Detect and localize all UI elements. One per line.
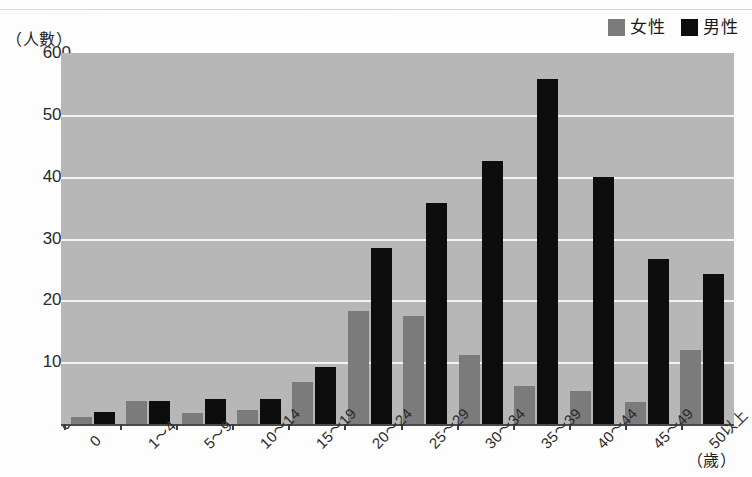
bar-group: [342, 53, 397, 424]
bar-group: [231, 53, 286, 424]
bar-male: [703, 274, 724, 424]
chart-legend: 女性男性: [608, 16, 738, 38]
bar-female: [126, 401, 147, 424]
bar-female: [182, 413, 203, 424]
bar-female: [237, 410, 258, 424]
bar-group: [65, 53, 120, 424]
chart-page: 女性男性 （人數） 0100200300400500600 01～45～910～…: [0, 0, 752, 477]
legend-entry-female: 女性: [608, 19, 665, 36]
bar-group: [453, 53, 508, 424]
legend-swatch-male: [681, 19, 698, 36]
legend-label-female: 女性: [630, 19, 665, 36]
bar-male: [94, 412, 115, 424]
legend-swatch-female: [608, 19, 625, 36]
scan-rule-top: [0, 9, 752, 10]
bar-group: [398, 53, 453, 424]
scan-rule-top-secondary: [0, 13, 752, 14]
bar-male: [371, 248, 392, 424]
bar-male: [537, 79, 558, 424]
bar-group: [619, 53, 674, 424]
bar-group: [120, 53, 175, 424]
bar-male: [593, 177, 614, 424]
bar-group: [287, 53, 342, 424]
bar-male: [426, 203, 447, 424]
bar-group: [176, 53, 231, 424]
legend-label-male: 男性: [703, 19, 738, 36]
x-axis-unit-label: （歲）: [687, 447, 737, 471]
bar-groups: [61, 53, 734, 424]
bar-group: [564, 53, 619, 424]
plot-area: [61, 53, 734, 424]
legend-entry-male: 男性: [681, 19, 738, 36]
bar-group: [675, 53, 730, 424]
x-axis-tick-labels: 01～45～910～1415～1920～2425～2930～3435～3940～…: [61, 424, 734, 477]
bar-group: [508, 53, 563, 424]
bar-male: [648, 259, 669, 424]
x-axis-tick-label: 0: [86, 432, 104, 450]
plot-wrapper: [61, 53, 734, 424]
bar-female: [71, 417, 92, 424]
bar-male: [482, 161, 503, 424]
